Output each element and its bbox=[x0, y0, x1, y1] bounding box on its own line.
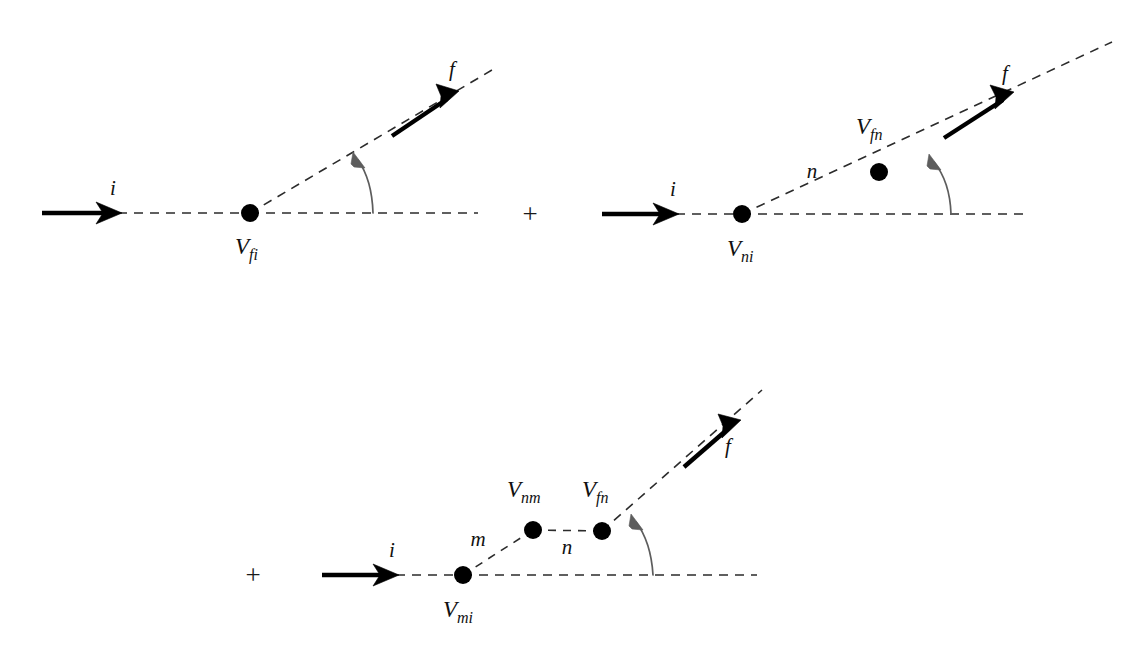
vertex-dot-vni bbox=[733, 205, 751, 223]
outgoing-dashed-line-2 bbox=[742, 42, 1112, 214]
perturbation-diagram-figure: i f Vfi + bbox=[0, 0, 1148, 655]
vertex-dot-vnm bbox=[524, 521, 542, 539]
vertex-dot-vfn-2 bbox=[870, 163, 888, 181]
outgoing-arrow-shaft-2 bbox=[944, 100, 1003, 138]
label-outgoing-1: f bbox=[449, 57, 458, 81]
plus-operator-1: + bbox=[522, 199, 537, 229]
label-vertex-vnm: Vnm bbox=[507, 477, 541, 506]
label-outgoing-2: f bbox=[1002, 61, 1011, 85]
angle-arc-arrowhead-icon-3 bbox=[629, 514, 643, 530]
diagram-second-order: i n f Vni Vfn bbox=[602, 42, 1112, 265]
scattering-angle-arc-3 bbox=[636, 522, 653, 575]
propagator-n-line-3 bbox=[533, 530, 602, 531]
vertex-dot-vfn-3 bbox=[593, 522, 611, 540]
vertex-dot-vfi bbox=[241, 204, 259, 222]
plus-operator-2: + bbox=[245, 560, 260, 590]
angle-arc-arrowhead-icon-2 bbox=[927, 154, 941, 170]
label-incoming-1: i bbox=[110, 176, 116, 200]
vertex-dot-vmi bbox=[454, 566, 472, 584]
figure-canvas: i f Vfi + bbox=[0, 0, 1148, 655]
outgoing-arrow-shaft-1 bbox=[392, 99, 447, 136]
label-vertex-vfn-3: Vfn bbox=[582, 477, 609, 507]
label-outgoing-3: f bbox=[725, 434, 734, 458]
diagram-first-order: i f Vfi bbox=[42, 57, 492, 264]
label-vertex-vmi: Vmi bbox=[443, 597, 473, 626]
label-incoming-2: i bbox=[670, 177, 676, 201]
diagram-third-order: i m n f Vmi Vnm Vfn bbox=[322, 390, 762, 626]
label-vertex-vfn-2: Vfn bbox=[856, 114, 883, 144]
label-incoming-3: i bbox=[389, 538, 395, 562]
outgoing-dashed-line-3 bbox=[602, 390, 762, 531]
label-vertex-vfi: Vfi bbox=[235, 234, 258, 264]
label-intermediate-n-2: n bbox=[807, 159, 818, 183]
label-vertex-vni: Vni bbox=[727, 236, 754, 265]
scattering-angle-arc-1 bbox=[358, 160, 373, 213]
angle-arc-arrowhead-icon-1 bbox=[351, 152, 365, 168]
label-intermediate-m-3: m bbox=[470, 527, 485, 551]
label-intermediate-n-3: n bbox=[562, 535, 573, 559]
